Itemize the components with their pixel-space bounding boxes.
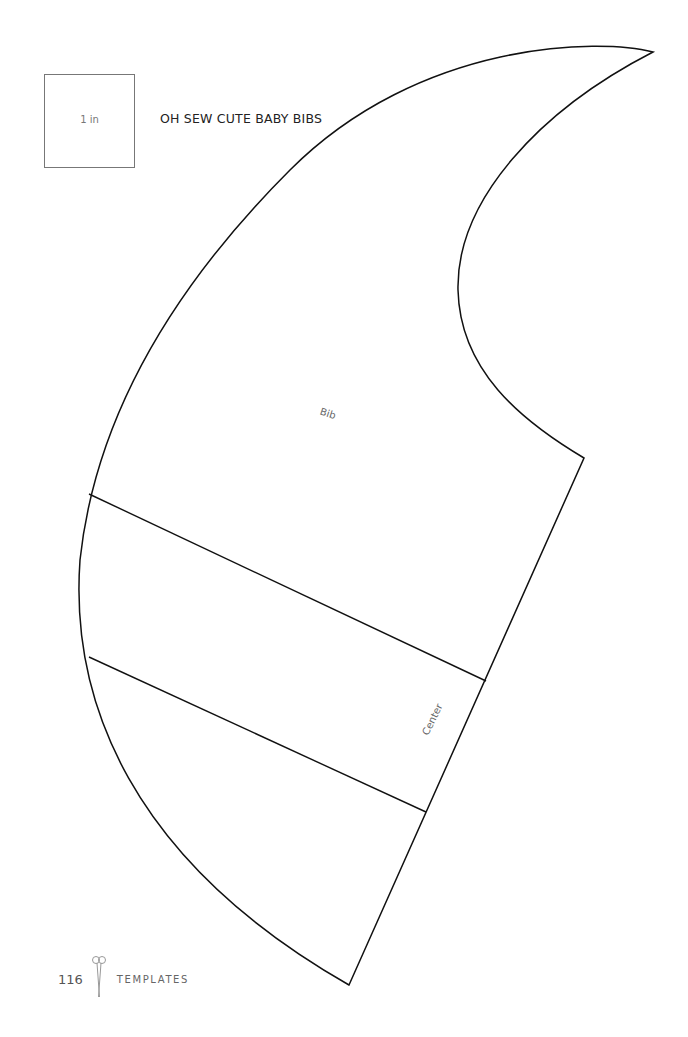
scissors-icon bbox=[91, 955, 107, 1003]
section-name: TEMPLATES bbox=[117, 974, 189, 985]
cut-line-top bbox=[89, 494, 486, 681]
page-footer: 116 TEMPLATES bbox=[58, 955, 189, 1003]
cut-line-bottom bbox=[89, 657, 426, 812]
page-number: 116 bbox=[58, 972, 83, 987]
bib-outline bbox=[79, 46, 653, 985]
bib-pattern-outline bbox=[0, 0, 688, 1037]
